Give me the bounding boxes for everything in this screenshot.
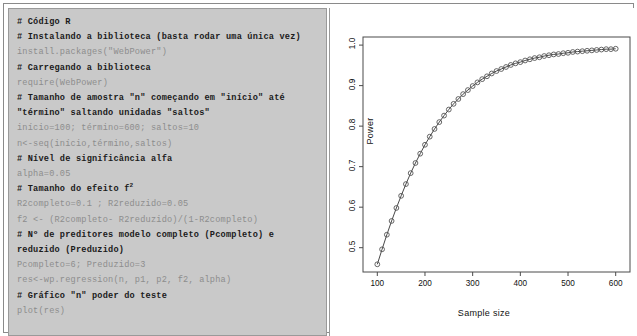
code-line-10: alpha=0.05 bbox=[17, 167, 320, 182]
code-line-15: reduzido (Preduzido) bbox=[17, 243, 320, 258]
code-line-2: install.packages("WebPower") bbox=[17, 45, 320, 60]
code-line-9: # Nível de significância alfa bbox=[17, 152, 320, 167]
code-line-12: R2completo=0.1 ; R2reduzido=0.05 bbox=[17, 197, 320, 212]
y-tick-label-1: 0.6 bbox=[348, 195, 357, 217]
y-tick-label-5: 1.0 bbox=[348, 33, 357, 55]
code-line-4: require(WebPower) bbox=[17, 76, 320, 91]
code-line-0: # Código R bbox=[17, 15, 320, 30]
code-line-3: # Carregando a biblioteca bbox=[17, 61, 320, 76]
code-line-17: res<-wp.regression(n, p1, p2, f2, alpha) bbox=[17, 273, 320, 288]
y-tick-label-0: 0.5 bbox=[348, 235, 357, 257]
r-code-panel: # Código R# Instalando a biblioteca (bas… bbox=[8, 8, 327, 336]
code-line-14: # Nº de preditores modelo completo (Pcom… bbox=[17, 228, 320, 243]
x-axis-title: Sample size bbox=[330, 308, 637, 318]
y-tick-label-2: 0.7 bbox=[348, 154, 357, 176]
code-line-16: Pcompleto=6; Preduzido=3 bbox=[17, 258, 320, 273]
outer-frame: # Código R# Instalando a biblioteca (bas… bbox=[3, 3, 634, 333]
code-line-1: # Instalando a biblioteca (basta rodar u… bbox=[17, 30, 320, 45]
x-tick-label-2: 300 bbox=[458, 279, 488, 288]
screenshot-root: # Código R# Instalando a biblioteca (bas… bbox=[0, 0, 637, 336]
code-line-list: # Código R# Instalando a biblioteca (bas… bbox=[17, 15, 320, 319]
code-line-7: início=100; término=600; saltos=10 bbox=[17, 121, 320, 136]
code-line-6: "término" saltando unidadas "saltos" bbox=[17, 106, 320, 121]
y-tick-label-4: 0.9 bbox=[348, 73, 357, 95]
x-tick-label-5: 600 bbox=[601, 279, 631, 288]
x-tick-label-4: 500 bbox=[553, 279, 583, 288]
code-line-13: f2 <- (R2completo- R2reduzido)/(1-R2comp… bbox=[17, 213, 320, 228]
y-tick-label-3: 0.8 bbox=[348, 114, 357, 136]
code-line-8: n<-seq(início,término,saltos) bbox=[17, 137, 320, 152]
code-line-18: # Gráfico "n" poder do teste bbox=[17, 289, 320, 304]
power-plot-panel: Power Sample size 0.50.60.70.80.91.0 100… bbox=[329, 8, 637, 336]
x-tick-label-1: 200 bbox=[410, 279, 440, 288]
superscript: 2 bbox=[130, 182, 134, 189]
x-tick-label-3: 400 bbox=[505, 279, 535, 288]
code-line-19: plot(res) bbox=[17, 304, 320, 319]
code-line-11: # Tamanho do efeito f2 bbox=[17, 182, 320, 197]
x-tick-label-0: 100 bbox=[362, 279, 392, 288]
chart-area: Power Sample size 0.50.60.70.80.91.0 100… bbox=[330, 8, 637, 336]
code-line-5: # Tamanho de amostra "n" começando em "i… bbox=[17, 91, 320, 106]
y-axis-title: Power bbox=[365, 93, 375, 169]
